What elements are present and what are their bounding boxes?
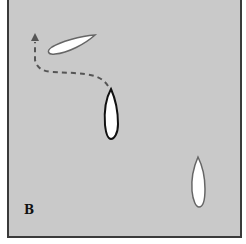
- panel-label: B: [24, 203, 34, 217]
- boat-center: [105, 89, 118, 139]
- boat-upper-left: [48, 35, 95, 54]
- arrowhead-icon: [31, 33, 39, 41]
- diagram-scene: [0, 0, 246, 244]
- boat-lower-right: [192, 157, 205, 207]
